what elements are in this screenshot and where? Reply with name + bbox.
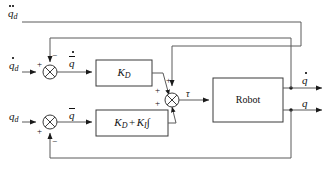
- sum-junction-torque: [165, 93, 179, 107]
- signal-label-position-error: q: [69, 110, 75, 121]
- sign-torque-sum-plus-lower-left: +: [155, 99, 160, 108]
- robot-block-label: Robot: [213, 78, 283, 122]
- path-pi-to-sum: [168, 107, 176, 123]
- input-label-acceleration-reference: qd: [8, 8, 18, 21]
- sign-position-sum-plus: +: [37, 127, 42, 136]
- sign-position-sum-minus: −: [52, 137, 57, 146]
- sum-junction-velocity: [43, 65, 57, 79]
- output-label-velocity: q: [302, 75, 308, 86]
- kd-ki-block-label: KD+KI∫: [96, 110, 168, 136]
- sign-velocity-sum-minus: −: [52, 51, 57, 60]
- input-label-position-reference: qd: [9, 111, 19, 124]
- block-diagram-canvas: qd qd qd + − + − + + + q q KD KD+KI∫ τ R…: [0, 0, 332, 175]
- sign-torque-sum-plus-upper-left: +: [155, 86, 160, 95]
- kd-block-label: KD: [96, 60, 152, 86]
- sign-torque-sum-plus-top: +: [166, 76, 171, 85]
- path-acceleration-feedforward: [22, 22, 301, 86]
- output-label-position: q: [302, 98, 308, 109]
- sign-velocity-sum-plus: +: [37, 60, 42, 69]
- input-label-velocity-reference: qd: [9, 60, 19, 73]
- signal-label-velocity-error: q: [69, 58, 75, 69]
- sum-junction-position: [43, 115, 57, 129]
- signal-label-torque: τ: [186, 89, 190, 99]
